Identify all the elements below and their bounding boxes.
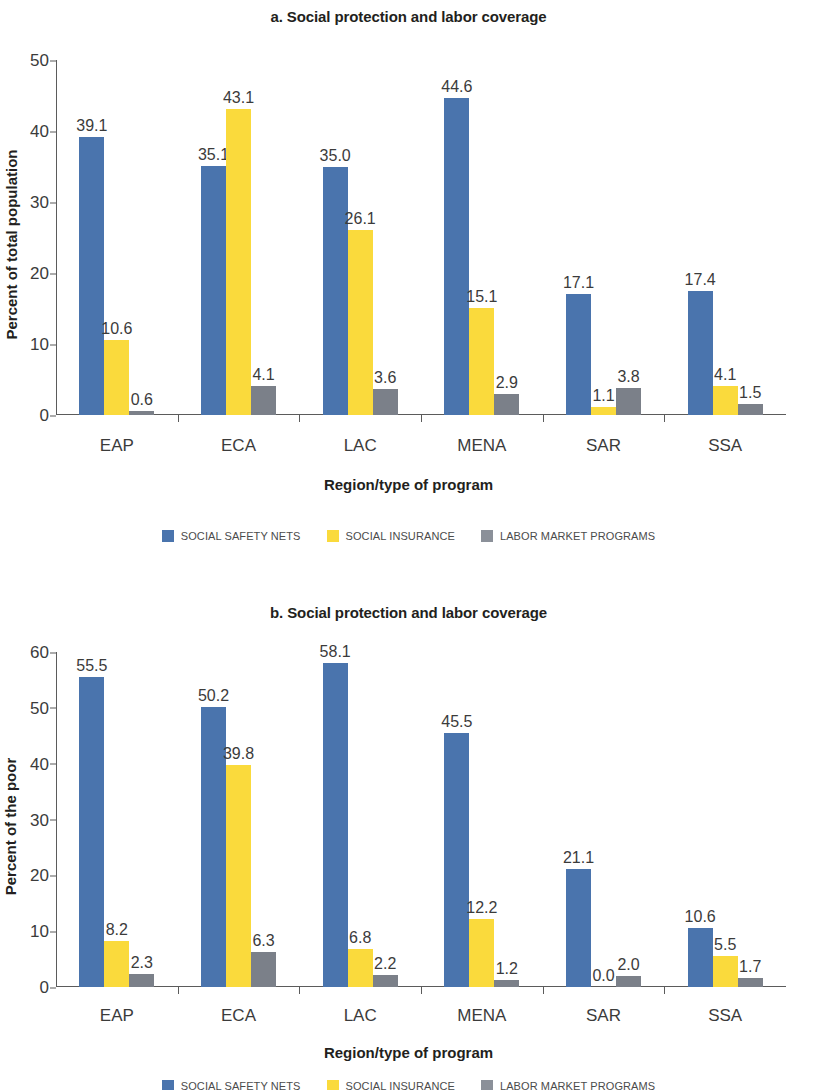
bar-value-label: 6.3 [252, 933, 274, 949]
bar-value-label: 5.5 [714, 937, 736, 953]
bar-slot: 8.2 [104, 652, 129, 987]
legend-item[interactable]: SOCIAL SAFETY NETS [162, 530, 301, 542]
bar[interactable] [469, 919, 494, 987]
bar[interactable] [566, 294, 591, 415]
bar[interactable] [373, 975, 398, 987]
x-axis-tick-mark [543, 987, 544, 994]
bar[interactable] [226, 109, 251, 415]
bar[interactable] [323, 167, 348, 416]
bar[interactable] [373, 389, 398, 415]
bar-slot: 15.1 [469, 60, 494, 415]
bar-value-label: 6.8 [349, 930, 371, 946]
bar[interactable] [226, 765, 251, 987]
bar-slot: 39.8 [226, 652, 251, 987]
bar-value-label: 4.1 [714, 367, 736, 383]
bar[interactable] [323, 663, 348, 987]
bar-value-label: 12.2 [466, 900, 497, 916]
y-tick-label: 40 [30, 123, 56, 140]
panel-a-x-axis-label: Region/type of program [0, 476, 817, 493]
bar-value-label: 58.1 [320, 644, 351, 660]
bar[interactable] [251, 952, 276, 987]
bar[interactable] [616, 976, 641, 987]
bar[interactable] [129, 974, 154, 987]
bar[interactable] [444, 733, 469, 987]
bar[interactable] [688, 291, 713, 415]
bar-set: 50.239.86.3 [201, 652, 276, 987]
panel-a-legend: SOCIAL SAFETY NETSSOCIAL INSURANCELABOR … [0, 530, 817, 542]
bar-value-label: 3.6 [374, 370, 396, 386]
x-tick-label: ECA [178, 1006, 300, 1026]
bar-slot: 35.1 [201, 60, 226, 415]
legend-label: SOCIAL INSURANCE [346, 1080, 455, 1090]
bar[interactable] [104, 941, 129, 987]
x-tick-label: SSA [664, 1006, 786, 1026]
bar-value-label: 2.9 [496, 375, 518, 391]
legend-item[interactable]: SOCIAL SAFETY NETS [162, 1080, 301, 1090]
bar-value-label: 44.6 [441, 79, 472, 95]
bar[interactable] [494, 394, 519, 415]
legend-label: SOCIAL SAFETY NETS [181, 530, 301, 542]
bar[interactable] [591, 407, 616, 415]
bar[interactable] [566, 869, 591, 987]
bar-slot: 10.6 [688, 652, 713, 987]
bar-value-label: 43.1 [223, 90, 254, 106]
bar-slot: 26.1 [348, 60, 373, 415]
x-axis-tick-mark [421, 415, 422, 422]
bar-slot: 0.0 [591, 652, 616, 987]
bar-slot: 1.5 [738, 60, 763, 415]
bar-slot: 50.2 [201, 652, 226, 987]
bar-slot: 21.1 [566, 652, 591, 987]
bar[interactable] [79, 677, 104, 987]
y-tick-label: 40 [30, 755, 56, 772]
bar[interactable] [688, 928, 713, 987]
bar[interactable] [738, 404, 763, 415]
x-tick-label: SSA [664, 436, 786, 456]
bar[interactable] [713, 956, 738, 987]
bar[interactable] [348, 230, 373, 415]
legend-label: SOCIAL INSURANCE [346, 530, 455, 542]
bar-set: 44.615.12.9 [444, 60, 519, 415]
bar-slot: 43.1 [226, 60, 251, 415]
bar-value-label: 2.0 [617, 957, 639, 973]
bar[interactable] [104, 340, 129, 415]
y-tick-label: 0 [40, 407, 56, 424]
bar-value-label: 1.2 [496, 961, 518, 977]
legend-item[interactable]: LABOR MARKET PROGRAMS [481, 1080, 655, 1090]
x-axis-tick-mark [178, 987, 179, 994]
x-tick-label: LAC [299, 436, 421, 456]
bar-set: 35.026.13.6 [323, 60, 398, 415]
bar[interactable] [469, 308, 494, 415]
bar[interactable] [444, 98, 469, 415]
bar-value-label: 45.5 [441, 714, 472, 730]
legend-swatch-icon [327, 1080, 339, 1090]
x-tick-label: MENA [421, 436, 543, 456]
bar[interactable] [616, 388, 641, 415]
panel-a-y-axis-label-text: Percent of total population [3, 149, 20, 339]
y-tick-label: 30 [30, 811, 56, 828]
bar[interactable] [201, 166, 226, 415]
bar-set: 35.143.14.1 [201, 60, 276, 415]
panel-b-x-axis-label: Region/type of program [0, 1044, 817, 1061]
bar-value-label: 17.1 [563, 275, 594, 291]
y-tick-label: 10 [30, 336, 56, 353]
bar-slot: 12.2 [469, 652, 494, 987]
bar[interactable] [348, 949, 373, 987]
bar[interactable] [494, 980, 519, 987]
legend-item[interactable]: LABOR MARKET PROGRAMS [481, 530, 655, 542]
bar[interactable] [79, 137, 104, 415]
bar[interactable] [251, 386, 276, 415]
bar[interactable] [738, 978, 763, 987]
chart-panel-a: a. Social protection and labor coverage … [0, 0, 817, 556]
legend-item[interactable]: SOCIAL INSURANCE [327, 1080, 455, 1090]
x-tick-label: EAP [56, 436, 178, 456]
bar[interactable] [713, 386, 738, 415]
x-axis-tick-mark [299, 987, 300, 994]
panel-a-plot-area: Percent of total population 01020304050 … [0, 60, 817, 428]
bar-slot: 1.1 [591, 60, 616, 415]
legend-label: LABOR MARKET PROGRAMS [500, 1080, 655, 1090]
bar-group: 44.615.12.9 [421, 60, 543, 415]
legend-item[interactable]: SOCIAL INSURANCE [327, 530, 455, 542]
bar[interactable] [129, 411, 154, 415]
bar-slot: 4.1 [251, 60, 276, 415]
bar-slot: 10.6 [104, 60, 129, 415]
